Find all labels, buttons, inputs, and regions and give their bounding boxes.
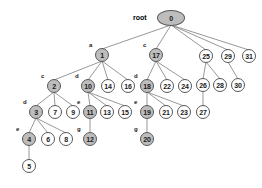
tree-node-15[interactable]: 15 (118, 105, 132, 119)
tree-node-5[interactable]: 5 (22, 159, 36, 173)
tree-diagram: root 01a17c2529312c10d141618d22242628303… (0, 0, 262, 188)
tree-edge (156, 25, 171, 49)
tree-node-20[interactable]: 20 (140, 132, 154, 146)
tree-edge (54, 92, 73, 106)
node-tag-10: d (75, 73, 79, 79)
tree-edge (102, 61, 128, 80)
tree-node-6[interactable]: 6 (41, 132, 55, 146)
node-tag-18: d (134, 73, 138, 79)
edge-layer (0, 0, 262, 188)
tree-node-19[interactable]: 19 (140, 105, 154, 119)
tree-edge (88, 92, 107, 106)
tree-edge (156, 61, 185, 80)
tree-edge (54, 92, 55, 106)
tree-node-28[interactable]: 28 (213, 78, 227, 92)
tree-edge (147, 61, 156, 80)
node-tag-2: c (41, 73, 44, 79)
tree-edge (102, 25, 171, 49)
tree-edge (88, 92, 125, 106)
tree-node-12[interactable]: 12 (83, 132, 97, 146)
tree-edge (171, 25, 249, 50)
node-tag-12: g (77, 126, 81, 132)
tree-edge (171, 25, 206, 50)
tree-node-25[interactable]: 25 (199, 49, 213, 63)
tree-node-8[interactable]: 8 (59, 132, 73, 146)
tree-node-26[interactable]: 26 (196, 78, 210, 92)
node-tag-17: c (143, 42, 146, 48)
tree-node-17[interactable]: 17 (149, 48, 163, 62)
tree-node-4[interactable]: 4 (22, 132, 36, 146)
tree-node-13[interactable]: 13 (100, 105, 114, 119)
tree-edge (206, 62, 220, 79)
tree-node-30[interactable]: 30 (231, 78, 245, 92)
tree-node-27[interactable]: 27 (196, 105, 210, 119)
tree-node-9[interactable]: 9 (66, 105, 80, 119)
node-tag-20: g (134, 126, 138, 132)
tree-node-2[interactable]: 2 (47, 79, 61, 93)
tree-node-14[interactable]: 14 (101, 79, 115, 93)
tree-node-16[interactable]: 16 (121, 79, 135, 93)
tree-node-1[interactable]: 1 (95, 48, 109, 62)
root-label: root (133, 14, 147, 21)
node-tag-3: d (23, 99, 27, 105)
node-tag-4: e (16, 126, 19, 132)
tree-edge (156, 61, 167, 80)
node-tag-1: a (89, 42, 92, 48)
tree-edge (147, 92, 166, 106)
tree-edge (36, 118, 48, 133)
tree-edge (102, 61, 108, 80)
tree-node-10[interactable]: 10 (81, 79, 95, 93)
tree-node-7[interactable]: 7 (48, 105, 62, 119)
node-tag-19: e (134, 99, 137, 105)
tree-node-21[interactable]: 21 (159, 105, 173, 119)
tree-edge (147, 92, 184, 106)
tree-edge (228, 62, 238, 79)
tree-node-18[interactable]: 18 (140, 79, 154, 93)
tree-edge (171, 25, 228, 50)
node-tag-11: e (77, 99, 80, 105)
tree-node-23[interactable]: 23 (177, 105, 191, 119)
tree-edge (36, 92, 54, 106)
tree-node-31[interactable]: 31 (242, 49, 256, 63)
tree-edge (29, 118, 36, 133)
tree-edge (36, 118, 66, 133)
tree-node-3[interactable]: 3 (29, 105, 43, 119)
tree-edge (203, 62, 206, 79)
tree-edge (88, 92, 90, 106)
tree-node-22[interactable]: 22 (160, 79, 174, 93)
tree-node-11[interactable]: 11 (83, 105, 97, 119)
tree-node-24[interactable]: 24 (178, 79, 192, 93)
tree-node-29[interactable]: 29 (221, 49, 235, 63)
tree-node-0[interactable]: 0 (157, 10, 185, 26)
